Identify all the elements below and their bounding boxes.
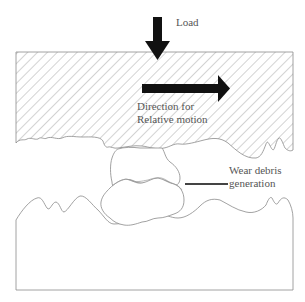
debris-label-line1: Wear debris xyxy=(229,164,282,177)
direction-label-line2: Relative motion xyxy=(137,113,208,126)
direction-label-line1: Direction for xyxy=(137,100,194,113)
load-label: Load xyxy=(176,16,199,29)
debris-label-line2: generation xyxy=(229,177,275,190)
wear-diagram xyxy=(0,0,305,302)
